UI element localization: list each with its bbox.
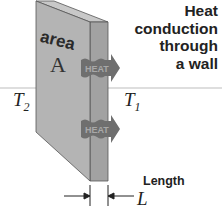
diagram-title: Heat conduction through a wall [108,2,218,72]
temperature-right: T1 [124,89,141,115]
heat-conduction-diagram: Heat conduction through a wall area A HE… [0,0,222,212]
wall-side-face [90,22,108,181]
length-symbol: L [137,188,148,210]
dimension-arrows [64,185,134,206]
temperature-left: T2 [13,89,30,115]
area-symbol: A [50,52,66,78]
heat-label: HEAT [85,125,109,135]
heat-label: HEAT [85,64,109,74]
length-label: Length [143,174,185,188]
